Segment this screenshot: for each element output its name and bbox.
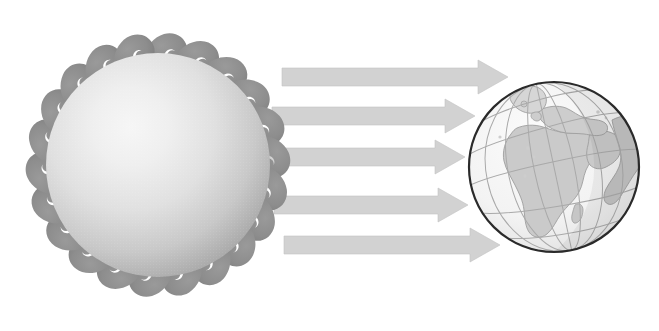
ray-3 bbox=[268, 140, 465, 174]
ray-4 bbox=[274, 188, 468, 222]
solar-radiation-diagram: Solar radiation reaching Earth Sun Solar… bbox=[0, 0, 659, 331]
island-dot-3 bbox=[523, 174, 527, 178]
sun bbox=[23, 30, 292, 299]
diagram-canvas bbox=[0, 0, 659, 331]
sun-disc-texture bbox=[46, 53, 270, 277]
ray-1 bbox=[282, 60, 508, 94]
island-dot-1 bbox=[526, 146, 530, 150]
island-dot-2 bbox=[532, 155, 535, 158]
island-dot-6 bbox=[498, 135, 501, 138]
globe bbox=[463, 70, 652, 265]
ray-2 bbox=[272, 99, 475, 133]
ray-5 bbox=[284, 228, 500, 262]
